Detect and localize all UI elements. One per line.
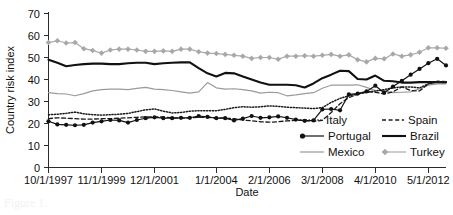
data-point-marker: [434, 45, 440, 51]
data-point-marker: [152, 49, 158, 55]
data-point-marker: [320, 53, 326, 59]
series-line-spain: [49, 81, 447, 122]
data-point-marker: [90, 48, 96, 54]
data-point-marker: [55, 122, 59, 126]
data-point-marker: [417, 67, 421, 71]
data-point-marker: [144, 116, 148, 120]
data-point-marker: [426, 61, 430, 65]
y-tick-label: 0: [34, 162, 40, 174]
x-tick-label: 4/1/2010: [354, 174, 397, 186]
x-axis-ticks: 10/1/199711/1/199912/1/20011/1/20042/1/2…: [24, 168, 450, 187]
series-group: [46, 38, 449, 127]
data-point-marker: [294, 117, 298, 121]
y-tick-label: 30: [28, 96, 40, 108]
legend-label-italy: Italy: [326, 114, 347, 126]
data-point-marker: [197, 114, 201, 118]
y-tick-label: 10: [28, 140, 40, 152]
data-point-marker: [240, 53, 246, 59]
data-point-marker: [143, 49, 149, 55]
data-point-marker: [126, 121, 130, 125]
data-point-marker: [214, 116, 218, 120]
data-point-marker: [134, 47, 140, 53]
data-point-marker: [435, 57, 439, 61]
data-point-marker: [258, 116, 262, 120]
legend-item-italy[interactable]: Italy: [300, 114, 347, 126]
legend-item-brazil[interactable]: Brazil: [382, 130, 439, 142]
data-point-marker: [444, 63, 448, 67]
y-axis-ticks: 010203040506070: [28, 8, 49, 174]
series-spain: [49, 81, 447, 122]
data-point-marker: [63, 40, 69, 46]
data-point-marker: [205, 50, 211, 56]
data-point-marker: [249, 56, 255, 62]
data-point-marker: [135, 118, 139, 122]
data-point-marker: [284, 53, 290, 59]
x-tick-label: 11/1/1999: [77, 174, 125, 186]
y-tick-label: 60: [28, 30, 40, 42]
data-point-marker: [356, 91, 360, 95]
x-tick-label: 3/1/2008: [301, 174, 344, 186]
data-point-marker: [116, 46, 122, 52]
data-point-marker: [426, 45, 432, 51]
data-point-marker: [64, 123, 68, 127]
data-point-marker: [125, 46, 131, 52]
legend-item-portugal[interactable]: Portugal: [300, 130, 371, 142]
legend-item-turkey[interactable]: Turkey: [382, 146, 445, 158]
legend-marker-turkey: [382, 149, 388, 155]
legend-label-portugal: Portugal: [328, 130, 371, 142]
data-point-marker: [46, 119, 50, 123]
y-axis-title: Country risk index: [4, 45, 16, 134]
x-tick-label: 5/1/2012: [407, 174, 450, 186]
series-line-italy: [49, 82, 447, 115]
data-point-marker: [99, 119, 103, 123]
data-point-marker: [152, 115, 156, 119]
data-point-marker: [443, 45, 449, 51]
data-point-marker: [250, 114, 254, 118]
data-point-marker: [337, 53, 343, 59]
x-tick-label: 10/1/1997: [24, 174, 73, 186]
data-point-marker: [46, 40, 52, 46]
y-tick-label: 50: [28, 52, 40, 64]
y-tick-label: 70: [28, 8, 40, 20]
series-line-portugal: [49, 59, 447, 125]
data-point-marker: [91, 121, 95, 125]
data-point-marker: [188, 116, 192, 120]
data-point-marker: [161, 116, 165, 120]
data-point-marker: [161, 48, 167, 54]
y-tick-label: 40: [28, 74, 40, 86]
data-point-marker: [373, 84, 377, 88]
series-turkey: [46, 38, 449, 65]
series-brazil: [49, 60, 447, 88]
data-point-marker: [179, 116, 183, 120]
data-point-marker: [373, 56, 379, 62]
data-point-marker: [285, 116, 289, 120]
legend-item-mexico[interactable]: Mexico: [300, 146, 364, 158]
legend-item-spain[interactable]: Spain: [382, 114, 437, 126]
data-point-marker: [82, 123, 86, 127]
data-point-marker: [329, 107, 333, 111]
data-point-marker: [170, 116, 174, 120]
x-tick-label: 1/1/2004: [195, 174, 238, 186]
data-point-marker: [55, 38, 61, 44]
data-point-marker: [258, 55, 264, 61]
data-point-marker: [364, 59, 370, 65]
data-point-marker: [205, 115, 209, 119]
data-point-marker: [214, 51, 220, 57]
data-point-marker: [232, 118, 236, 122]
x-tick-label: 12/1/2001: [130, 174, 179, 186]
data-point-marker: [408, 52, 414, 58]
data-point-marker: [73, 123, 77, 127]
series-italy: [49, 82, 447, 115]
data-point-marker: [346, 52, 352, 58]
data-point-marker: [328, 52, 334, 58]
legend-label-mexico: Mexico: [328, 146, 364, 158]
data-point-marker: [267, 55, 273, 61]
data-point-marker: [320, 107, 324, 111]
data-point-marker: [302, 53, 308, 59]
legend-label-turkey: Turkey: [410, 146, 445, 158]
y-tick-label: 20: [28, 118, 40, 130]
data-point-marker: [108, 47, 114, 53]
data-point-marker: [117, 118, 121, 122]
country-risk-index-line-chart: 010203040506070 10/1/199711/1/199912/1/2…: [0, 0, 453, 215]
data-point-marker: [391, 84, 395, 88]
